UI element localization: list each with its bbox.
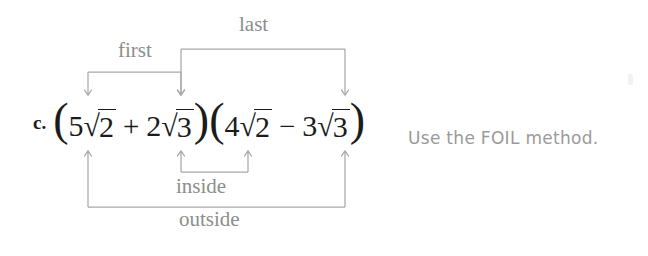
factor-one: (5√2+2√3) <box>53 104 209 143</box>
operator-plus: + <box>116 110 146 142</box>
coefficient-4: 4 <box>224 109 239 142</box>
radical-sign-3: √ <box>239 109 254 142</box>
open-paren-1: ( <box>53 94 68 145</box>
radical-sign-2: √ <box>161 109 176 142</box>
radicand-3: 3 <box>176 109 194 144</box>
coefficient-2: 2 <box>146 109 161 142</box>
coefficient-5: 5 <box>69 109 84 142</box>
open-paren-2: ( <box>209 94 224 145</box>
figure-canvas: first last inside outside c. (5√2+2√3) (… <box>0 0 648 256</box>
connector-label-outside: outside <box>179 209 240 230</box>
connector-label-first: first <box>118 40 152 61</box>
close-paren-1: ) <box>194 94 209 145</box>
connector-last <box>181 49 345 95</box>
radical-sign-1: √ <box>84 109 99 142</box>
radicand-2: 2 <box>98 109 116 144</box>
scan-artifact-speck <box>628 74 633 85</box>
item-letter: c. <box>33 112 46 134</box>
close-paren-2: ) <box>350 94 365 145</box>
connector-first <box>88 72 181 95</box>
connector-label-inside: inside <box>176 176 226 197</box>
radical-sign-4: √ <box>317 109 332 142</box>
connector-inside <box>181 151 248 172</box>
radicand-2b: 2 <box>254 109 272 144</box>
operator-minus: − <box>272 110 302 142</box>
radicand-3b: 3 <box>332 109 350 144</box>
coefficient-3: 3 <box>302 109 317 142</box>
connector-label-last: last <box>239 14 268 35</box>
factor-two: (4√2−3√3) <box>209 104 365 143</box>
instruction-note: Use the FOIL method. <box>408 128 599 148</box>
math-expression: c. (5√2+2√3) (4√2−3√3) <box>33 101 365 145</box>
